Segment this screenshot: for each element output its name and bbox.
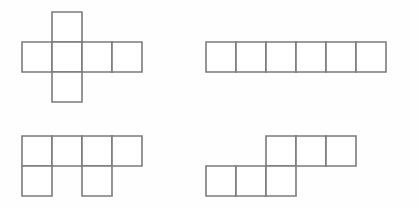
net-square <box>326 42 356 72</box>
shape-group-bottom-right <box>206 136 356 196</box>
net-square <box>22 166 52 196</box>
net-square <box>82 42 112 72</box>
net-square <box>52 136 82 166</box>
net-square <box>82 136 112 166</box>
net-square <box>22 136 52 166</box>
shape-group-bottom-left <box>22 136 142 196</box>
cube-nets-svg <box>0 0 419 208</box>
net-square <box>356 42 386 72</box>
net-square <box>206 166 236 196</box>
net-square <box>266 42 296 72</box>
net-square <box>236 42 266 72</box>
shape-group-top-left <box>22 12 142 102</box>
net-square <box>22 42 52 72</box>
net-square <box>236 166 266 196</box>
net-square <box>326 136 356 166</box>
net-square <box>112 42 142 72</box>
net-square <box>296 42 326 72</box>
net-square <box>206 42 236 72</box>
net-square <box>52 42 82 72</box>
net-square <box>52 72 82 102</box>
net-square <box>266 136 296 166</box>
net-square <box>52 12 82 42</box>
net-square <box>112 136 142 166</box>
figure-canvas <box>0 0 419 208</box>
shape-group-top-right <box>206 42 386 72</box>
net-square <box>82 166 112 196</box>
net-square <box>296 136 326 166</box>
net-square <box>266 166 296 196</box>
